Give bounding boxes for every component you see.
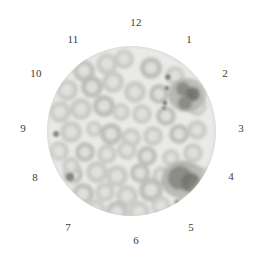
clock-label-5: 5 xyxy=(180,222,202,233)
microscopy-screenshot: 123456789101112 xyxy=(0,0,258,257)
clock-label-10: 10 xyxy=(25,68,47,79)
clock-label-7: 7 xyxy=(57,222,79,233)
clock-label-1: 1 xyxy=(178,34,200,45)
clock-label-8: 8 xyxy=(24,172,46,183)
field-of-view[interactable] xyxy=(47,46,216,216)
clock-label-9: 9 xyxy=(12,123,34,134)
smear-canvas xyxy=(47,46,216,216)
clock-label-6: 6 xyxy=(125,235,147,246)
erythrocyte-rim xyxy=(162,213,180,216)
film-grain xyxy=(47,46,216,216)
clock-label-11: 11 xyxy=(62,34,84,45)
clock-label-2: 2 xyxy=(214,68,236,79)
clock-label-12: 12 xyxy=(125,17,147,28)
erythrocyte xyxy=(162,213,180,216)
clock-label-3: 3 xyxy=(230,123,252,134)
clock-label-4: 4 xyxy=(220,171,242,182)
